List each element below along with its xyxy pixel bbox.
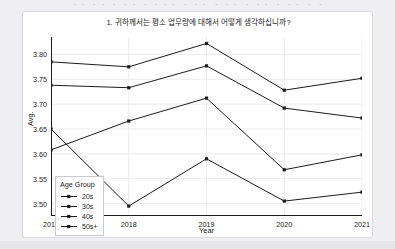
y-axis-tick-label: 3.65 [33, 124, 47, 133]
data-point-marker [205, 42, 208, 45]
data-point-marker [283, 107, 286, 110]
legend-item-50s+[interactable]: 50s+ [60, 221, 97, 231]
y-axis-tick-label: 3.50 [33, 199, 47, 208]
data-point-marker [51, 84, 53, 87]
x-axis-tick-label: 2021 [354, 220, 370, 229]
legend-item-label: 30s [82, 203, 93, 210]
cut-off-text-fragment: ㆍㆍ ㆍㆍ ㆍ ㆍㆍ ㆍ ㆍㆍㆍ ㆍ ㆍㆍ ㆍ ㆍㆍ ㆍ ㆍㆍ ㆍ ㆍㆍ ㆍ ㆍ [0, 0, 395, 10]
x-axis-tick-label: 2019 [199, 220, 215, 229]
legend-item-30s[interactable]: 30s [60, 201, 97, 211]
y-axis-tick-label: 3.80 [33, 50, 47, 59]
legend-item-20s[interactable]: 20s [60, 191, 97, 201]
data-point-marker [360, 116, 362, 119]
chart-card: 1. 귀하께서는 평소 업무량에 대해서 어떻게 생각하십니까? Avg. Ye… [22, 11, 373, 238]
data-point-marker [51, 60, 53, 63]
y-axis-tick-label: 3.55 [33, 174, 47, 183]
data-point-marker [127, 65, 130, 68]
data-point-marker [283, 199, 286, 202]
data-point-marker [205, 64, 208, 67]
y-axis-tick-label: 3.75 [33, 75, 47, 84]
legend-item-label: 20s [82, 193, 93, 200]
data-point-marker [205, 157, 208, 160]
data-point-marker [51, 148, 53, 151]
legend: Age Group 20s30s40s50s+ [55, 176, 104, 236]
data-point-marker [360, 153, 362, 156]
legend-title: Age Group [60, 180, 97, 189]
data-point-marker [283, 89, 286, 92]
legend-item-label: 40s [82, 213, 93, 220]
legend-line-marker-icon [60, 192, 78, 201]
data-point-marker [360, 191, 362, 194]
data-point-marker [127, 204, 130, 207]
x-axis-tick-label: 2020 [276, 220, 292, 229]
data-point-marker [127, 119, 130, 122]
legend-line-marker-icon [60, 222, 78, 231]
legend-item-label: 50s+ [82, 223, 97, 230]
legend-line-marker-icon [60, 212, 78, 221]
data-point-marker [283, 168, 286, 171]
legend-line-marker-icon [60, 202, 78, 211]
legend-item-40s[interactable]: 40s [60, 211, 97, 221]
screenshot-root: ㆍㆍ ㆍㆍ ㆍ ㆍㆍ ㆍ ㆍㆍㆍ ㆍ ㆍㆍ ㆍ ㆍㆍ ㆍ ㆍㆍ ㆍ ㆍㆍ ㆍ ㆍ… [0, 0, 395, 249]
page-bottom-strip [0, 241, 395, 249]
x-axis-tick-label: 2018 [121, 220, 137, 229]
data-point-marker [127, 86, 130, 89]
data-point-marker [360, 77, 362, 80]
data-point-marker [51, 127, 53, 130]
legend-rows: 20s30s40s50s+ [60, 191, 97, 231]
data-point-marker [205, 97, 208, 100]
y-axis-tick-label: 3.60 [33, 149, 47, 158]
y-axis-tick-label: 3.70 [33, 100, 47, 109]
chart-title: 1. 귀하께서는 평소 업무량에 대해서 어떻게 생각하십니까? [23, 16, 373, 27]
